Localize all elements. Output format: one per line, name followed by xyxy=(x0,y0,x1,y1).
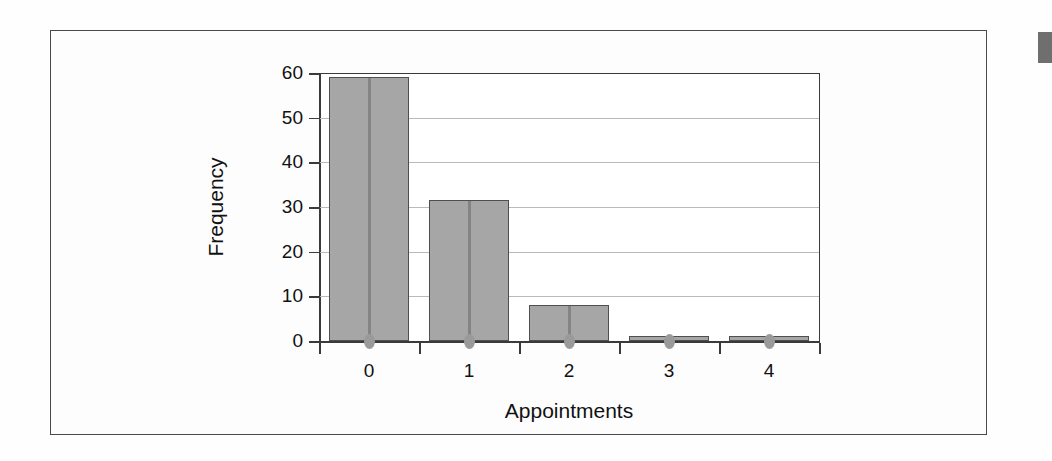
y-tick-label: 60 xyxy=(243,63,303,82)
y-tick-mark xyxy=(309,252,320,254)
y-tick-label: 50 xyxy=(243,108,303,127)
bar-center-marker xyxy=(464,334,475,349)
x-tick-mark xyxy=(319,343,321,354)
bar-center-marker xyxy=(364,334,375,349)
x-tick-mark xyxy=(519,343,521,354)
x-tick-label: 4 xyxy=(729,361,809,380)
y-tick-label: 10 xyxy=(243,286,303,305)
x-tick-label: 0 xyxy=(329,361,409,380)
bar-center-marker xyxy=(564,334,575,349)
x-axis-label: Appointments xyxy=(319,399,819,423)
bar-center-marker xyxy=(764,334,775,349)
y-tick-label: 30 xyxy=(243,197,303,216)
x-tick-mark xyxy=(419,343,421,354)
y-tick-label: 20 xyxy=(243,242,303,261)
x-tick-mark xyxy=(719,343,721,354)
y-tick-label: 0 xyxy=(243,331,303,350)
y-tick-mark xyxy=(309,162,320,164)
bar xyxy=(329,77,409,341)
bar-chart: 0102030405060 01234 Frequency Appointmen… xyxy=(51,31,988,436)
y-tick-mark xyxy=(309,73,320,75)
y-tick-label: 40 xyxy=(243,152,303,171)
bar-center-marker xyxy=(664,334,675,349)
page-background: 0102030405060 01234 Frequency Appointmen… xyxy=(0,0,1052,461)
y-tick-mark xyxy=(309,296,320,298)
y-tick-mark xyxy=(309,207,320,209)
x-tick-mark xyxy=(819,343,821,354)
y-axis-label: Frequency xyxy=(204,157,228,256)
page-edge-marker xyxy=(1038,32,1052,63)
x-tick-label: 1 xyxy=(429,361,509,380)
y-tick-mark xyxy=(309,118,320,120)
bar xyxy=(429,200,509,341)
x-tick-mark xyxy=(619,343,621,354)
x-tick-label: 2 xyxy=(529,361,609,380)
x-tick-label: 3 xyxy=(629,361,709,380)
figure-frame: 0102030405060 01234 Frequency Appointmen… xyxy=(50,30,987,435)
